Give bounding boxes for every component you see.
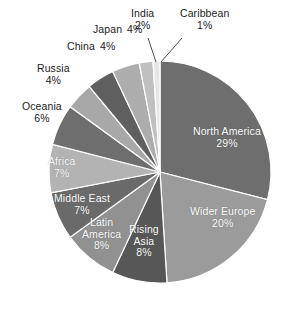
slice-label-russia: Russia4% [37,63,70,86]
slice-label-name: Russia [37,62,70,74]
slice-label-name: LatinAmerica [82,217,121,240]
pie-chart-canvas [0,0,294,311]
slice-label-name: Africa [48,155,75,167]
slice-label-name: RisingAsia [129,224,159,247]
slice-label-middle-east: Middle East7% [54,193,110,216]
slice-label-percent: 7% [48,168,75,180]
slice-label-wider-europe: Wider Europe20% [190,206,255,229]
slice-label-name: Oceania [22,100,62,112]
slice-label-china: China4% [67,41,115,53]
slice-label-oceania: Oceania6% [22,101,62,124]
caribbean-leader [161,38,182,62]
slice-label-percent: 2% [131,20,154,32]
slice-label-name: North America [193,125,261,137]
slice-label-percent: 6% [22,113,62,125]
slice-label-name: Middle East [54,192,110,204]
slice-label-africa: Africa7% [48,156,75,179]
slice-label-name: China [67,40,95,52]
slice-label-percent: 20% [190,218,255,230]
slice-label-percent: 8% [82,240,121,252]
slice-label-name: Japan [93,23,122,35]
slice-label-caribbean: Caribbean1% [180,8,229,31]
slice-label-latin-america: LatinAmerica8% [82,217,121,252]
slice-label-percent: 8% [129,247,159,259]
slice-label-india: India2% [131,8,154,31]
slice-label-rising-asia: RisingAsia8% [129,224,159,259]
leader-line-group [148,38,182,62]
slice-label-name: Caribbean [180,7,229,19]
slice-label-name: India [131,7,154,19]
slice-label-north-america: North America29% [193,126,261,149]
slice-label-percent: 1% [180,20,229,32]
slice-label-percent: 4% [100,40,115,52]
slice-label-percent: 4% [37,75,70,87]
slice-label-percent: 29% [193,138,261,150]
pie-chart-figure: North America29%Wider Europe20%RisingAsi… [0,0,294,311]
india-leader [148,38,156,62]
slice-label-name: Wider Europe [190,205,255,217]
slice-label-percent: 7% [54,205,110,217]
